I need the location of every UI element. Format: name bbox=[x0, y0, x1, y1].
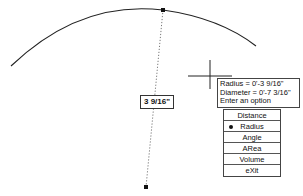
dimension-value-label: 3 9/16" bbox=[140, 95, 174, 109]
prompt-text: Enter an option bbox=[220, 97, 297, 106]
arc-entity[interactable] bbox=[11, 9, 256, 66]
center-grip-point[interactable] bbox=[144, 185, 148, 189]
measure-tooltip: Radius = 0'-3 9/16" Diameter = 0'-7 3/16… bbox=[217, 78, 300, 108]
menu-item-distance[interactable]: Distance bbox=[224, 110, 280, 121]
menu-item-radius[interactable]: Radius bbox=[224, 121, 280, 132]
menu-item-exit[interactable]: eXit bbox=[224, 165, 280, 176]
menu-item-volume[interactable]: Volume bbox=[224, 154, 280, 165]
selected-bullet-icon bbox=[229, 125, 233, 129]
menu-item-area[interactable]: ARea bbox=[224, 143, 280, 154]
options-menu: Distance Radius Angle ARea Volume eXit bbox=[223, 109, 281, 177]
arc-grip-point[interactable] bbox=[161, 8, 165, 12]
menu-item-angle[interactable]: Angle bbox=[224, 132, 280, 143]
